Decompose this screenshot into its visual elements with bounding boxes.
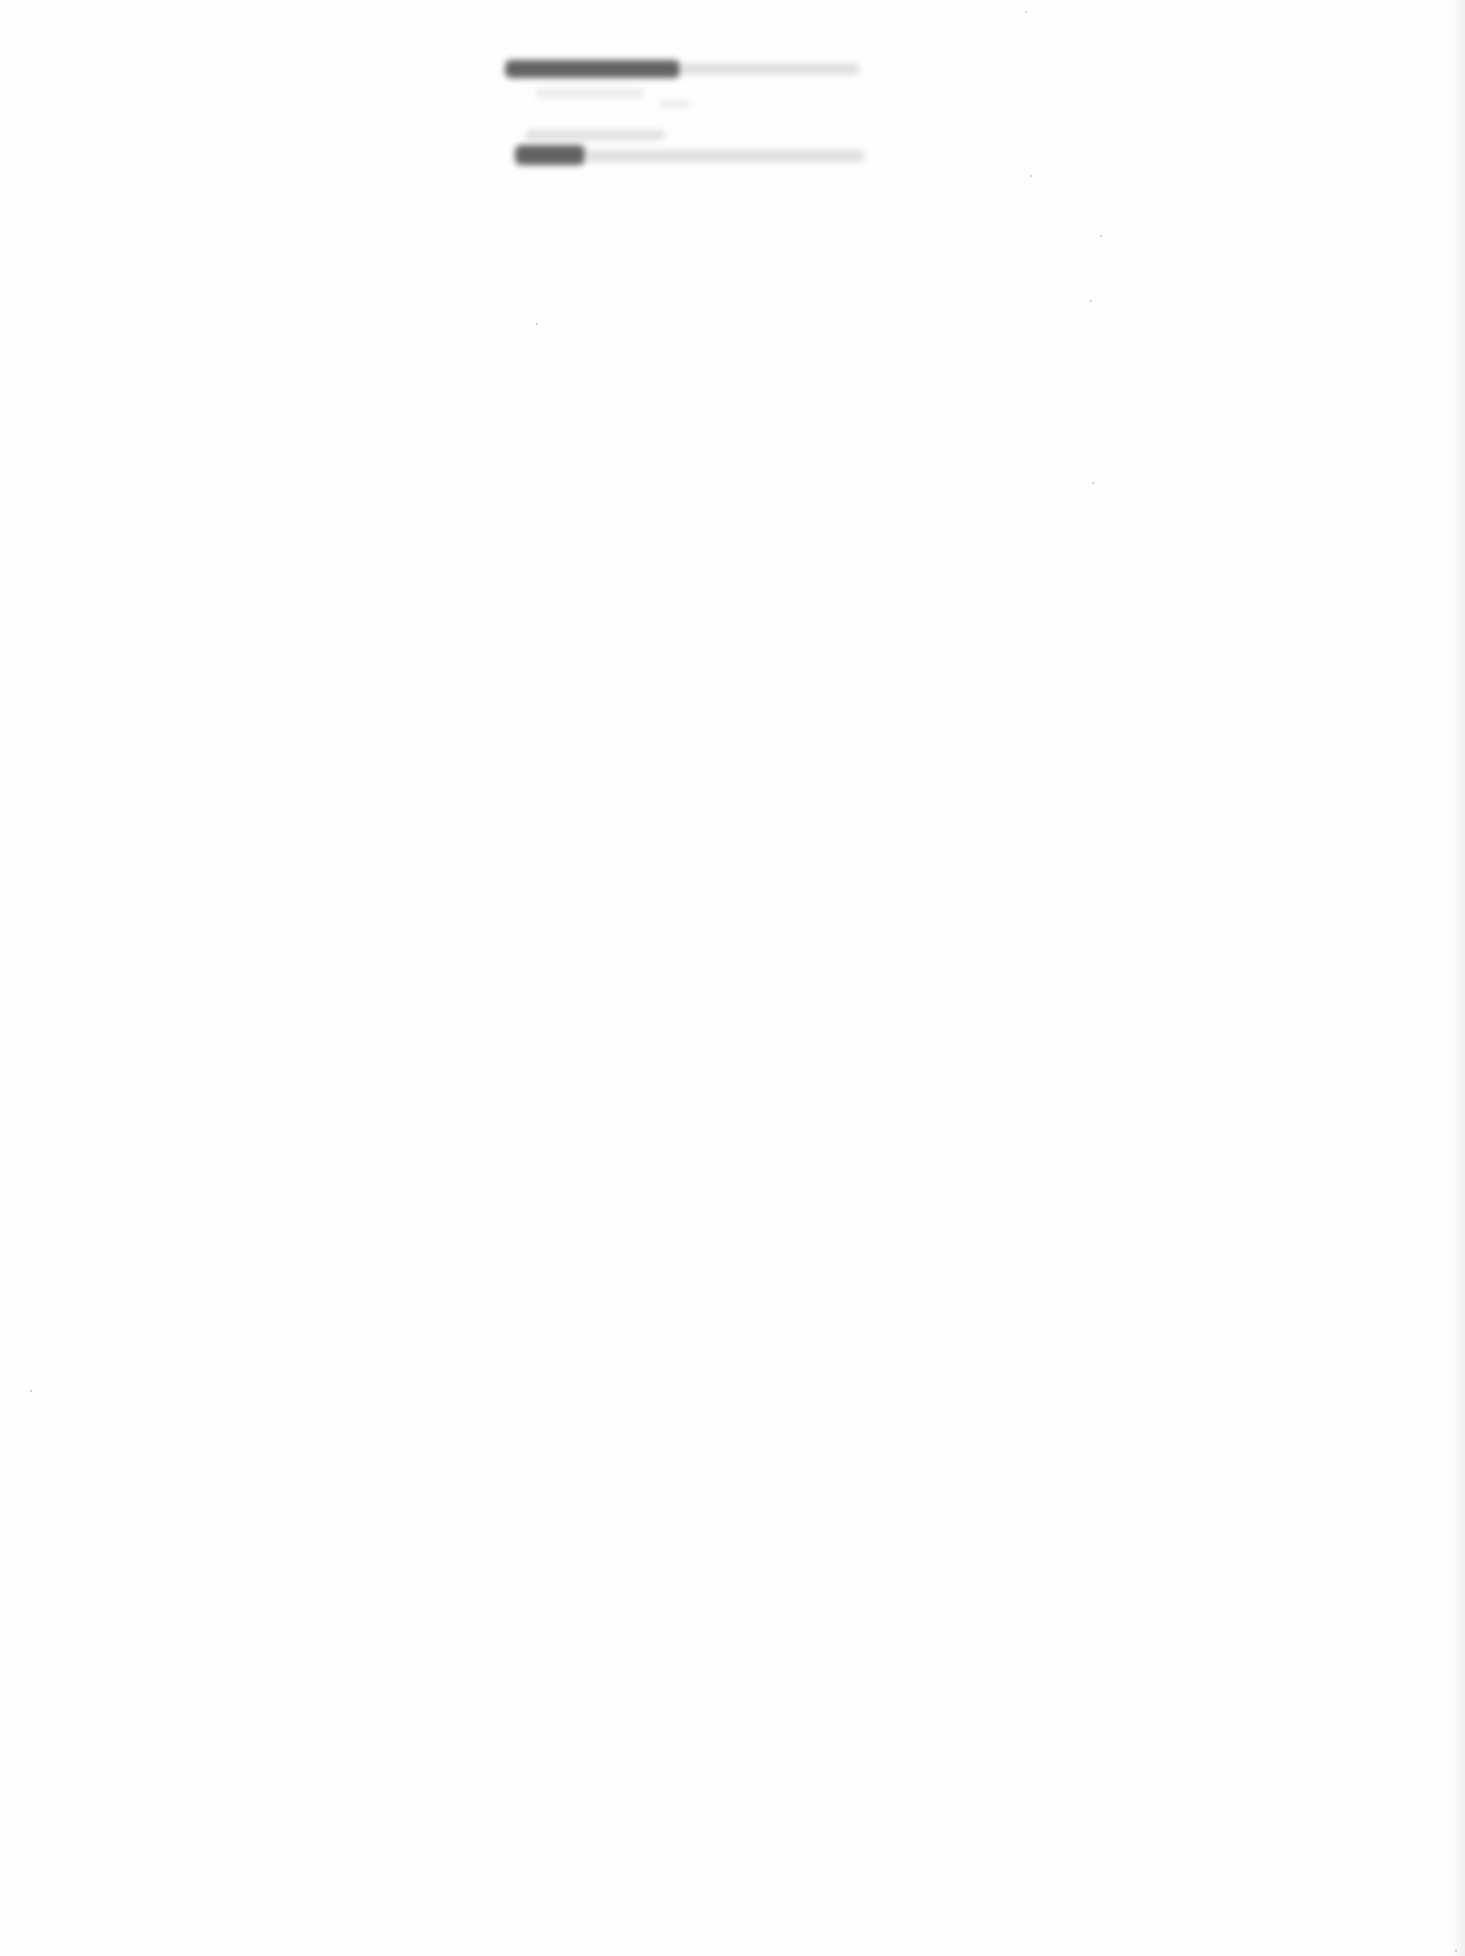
noise-speck <box>1090 300 1092 302</box>
illegible-text-line <box>525 130 665 140</box>
illegible-text-line <box>505 60 680 78</box>
noise-speck <box>1455 1950 1457 1952</box>
noise-speck <box>1025 11 1027 13</box>
illegible-text-line <box>680 63 860 75</box>
illegible-text-line <box>515 145 585 165</box>
scanned-page <box>0 0 1465 1956</box>
illegible-text-line <box>535 88 645 98</box>
noise-speck <box>1100 235 1102 237</box>
scanner-edge-shadow <box>1451 0 1465 1956</box>
noise-speck <box>536 323 538 325</box>
illegible-text-line <box>660 100 690 108</box>
noise-speck <box>1092 482 1094 484</box>
illegible-text-line <box>585 150 865 162</box>
noise-speck <box>1030 175 1032 177</box>
noise-speck <box>30 1390 32 1392</box>
